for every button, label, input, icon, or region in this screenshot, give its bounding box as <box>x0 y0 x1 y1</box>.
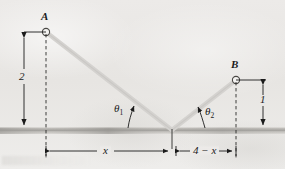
dimension-label-base-right: 4 − x <box>190 145 219 156</box>
angle-label-theta-2: θ2 <box>205 106 214 120</box>
angle-leader-theta-1 <box>128 106 134 128</box>
dimension-height-left <box>24 32 46 125</box>
point-a-label: A <box>41 11 48 22</box>
angle-label-theta-1: θ1 <box>114 103 123 117</box>
diagram-canvas <box>0 0 285 169</box>
angle-leader-theta-2 <box>198 107 205 128</box>
dimension-label-base-left: x <box>100 145 111 156</box>
dimension-label-height-left: 2 <box>19 71 25 82</box>
reflection-diagram-figure: A B 2 1 x 4 − x θ1 θ2 <box>0 0 285 169</box>
mirror-surface <box>0 128 285 135</box>
theta-2-subscript: 2 <box>210 111 214 120</box>
theta-1-subscript: 1 <box>119 108 123 117</box>
dimension-label-height-right: 1 <box>260 94 266 105</box>
point-b-label: B <box>231 59 238 70</box>
